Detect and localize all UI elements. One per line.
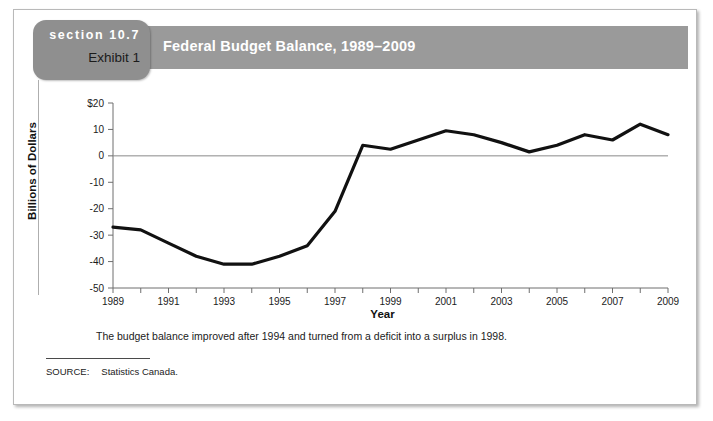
exhibit-number-label: Exhibit 1 bbox=[33, 50, 140, 65]
exhibit-page: Federal Budget Balance, 1989–2009 sectio… bbox=[0, 0, 713, 421]
source-row: SOURCE:Statistics Canada. bbox=[46, 366, 178, 377]
source-value: Statistics Canada. bbox=[89, 366, 178, 377]
exhibit-caption: The budget balance improved after 1994 a… bbox=[96, 330, 616, 342]
y-axis-title: Billions of Dollars bbox=[26, 111, 38, 231]
source-label: SOURCE: bbox=[46, 366, 89, 377]
exhibit-title: Federal Budget Balance, 1989–2009 bbox=[163, 38, 415, 54]
tab-connector-line bbox=[38, 80, 39, 295]
source-divider bbox=[46, 358, 150, 359]
section-tab: section 10.7 Exhibit 1 bbox=[33, 20, 150, 80]
x-axis-title: Year bbox=[0, 308, 713, 320]
section-number-label: section 10.7 bbox=[33, 28, 140, 42]
